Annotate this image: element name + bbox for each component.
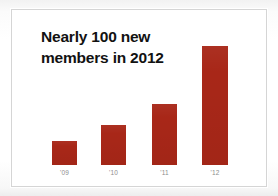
bar-group-1: 33 '10 bbox=[101, 9, 126, 187]
bar-group-0: 20 '09 bbox=[52, 9, 77, 187]
bar-category-label-3: '12 bbox=[202, 169, 228, 176]
bar-category-label-0: '09 bbox=[52, 169, 77, 176]
bar-3[interactable] bbox=[202, 46, 228, 165]
bar-group-3: 98 '12 bbox=[202, 9, 228, 187]
bar-2[interactable] bbox=[152, 104, 177, 165]
bar-category-label-1: '10 bbox=[101, 169, 126, 176]
slide-canvas: Nearly 100 new members in 2012 20 '09 33… bbox=[0, 0, 278, 196]
bar-group-2: 50 '11 bbox=[152, 9, 177, 187]
bar-1[interactable] bbox=[101, 125, 126, 165]
bar-category-label-2: '11 bbox=[152, 169, 177, 176]
bar-chart-plot-area: 20 '09 33 '10 50 '11 98 '12 bbox=[11, 9, 267, 187]
bar-0[interactable] bbox=[52, 141, 77, 165]
